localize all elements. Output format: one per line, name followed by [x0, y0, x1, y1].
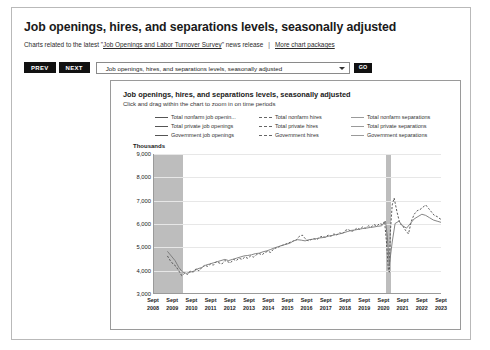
legend-item[interactable]: Government separations	[351, 131, 430, 140]
chart-select-value: Job openings, hires, and separations lev…	[106, 65, 282, 72]
legend-label: Total private job openings	[171, 123, 233, 129]
legend-item[interactable]: Total private separations	[351, 122, 430, 131]
legend-swatch-icon	[351, 115, 364, 120]
legend-column-hires: Total nonfarm hiresTotal private hiresGo…	[259, 113, 322, 140]
legend-label: Total nonfarm job openin...	[171, 114, 236, 120]
y-axis-tick-label: 9,000	[125, 151, 151, 157]
y-axis-tick-label: 4,000	[125, 267, 151, 273]
chart-package-page: Job openings, hires, and separations lev…	[11, 7, 471, 340]
page-title: Job openings, hires, and separations lev…	[24, 20, 454, 34]
legend-label: Government hires	[275, 132, 319, 138]
legend-swatch-icon	[155, 124, 168, 129]
legend-label: Government job openings	[171, 132, 234, 138]
x-axis-labels: Sept2008Sept2009Sept2010Sept2011Sept2012…	[153, 296, 441, 320]
legend-item[interactable]: Total nonfarm separations	[351, 113, 430, 122]
legend-swatch-icon	[259, 124, 272, 129]
next-button[interactable]: NEXT	[59, 62, 90, 73]
legend-item[interactable]: Total nonfarm job openin...	[155, 113, 236, 122]
legend-item[interactable]: Total private hires	[259, 122, 322, 131]
plot-area-wrapper: Thousands 9,0008,0007,0006,0005,0004,000…	[111, 143, 462, 329]
chart-card: Job openings, hires, and separations lev…	[110, 80, 461, 330]
series-svg	[154, 154, 441, 293]
blurb-prefix: Charts related to the latest "	[24, 41, 103, 48]
y-axis-tick-label: 8,000	[125, 174, 151, 180]
chart-select[interactable]: Job openings, hires, and separations lev…	[96, 62, 350, 74]
chart-subtitle: Click and drag within the chart to zoom …	[123, 101, 275, 107]
legend-label: Total private hires	[275, 123, 318, 129]
blurb-separator: |	[263, 41, 275, 48]
jolts-release-link[interactable]: Job Openings and Labor Turnover Survey	[103, 41, 222, 48]
y-axis-tick-label: 5,000	[125, 244, 151, 250]
y-axis-labels: 9,0008,0007,0006,0005,0004,0003,000	[123, 154, 151, 294]
go-button[interactable]: GO	[354, 63, 372, 73]
series-line	[167, 214, 441, 273]
legend-swatch-icon	[155, 133, 168, 138]
legend-item[interactable]: Total private job openings	[155, 122, 236, 131]
legend-column-openings: Total nonfarm job openin...Total private…	[155, 113, 236, 140]
chart-nav-toolbar: PREVNEXTJob openings, hires, and separat…	[24, 58, 372, 70]
y-axis-tick-label: 6,000	[125, 221, 151, 227]
legend-swatch-icon	[351, 124, 364, 129]
y-axis-tick-label: 7,000	[125, 197, 151, 203]
legend-item[interactable]: Government job openings	[155, 131, 236, 140]
legend-swatch-icon	[259, 133, 272, 138]
chevron-down-icon	[339, 67, 345, 70]
x-tick-year: 2023	[428, 304, 454, 312]
legend-swatch-icon	[351, 133, 364, 138]
legend-label: Government separations	[367, 132, 427, 138]
blurb-suffix: " news release	[222, 41, 264, 48]
y-axis-unit-label: Thousands	[133, 143, 165, 149]
legend-swatch-icon	[259, 115, 272, 120]
related-release-text: Charts related to the latest "Job Openin…	[24, 41, 460, 48]
legend-item[interactable]: Total nonfarm hires	[259, 113, 322, 122]
prev-button[interactable]: PREV	[24, 62, 56, 73]
legend-swatch-icon	[155, 115, 168, 120]
chart-legend: Total nonfarm job openin...Total private…	[155, 113, 455, 140]
more-chart-packages-link[interactable]: More chart packages	[275, 41, 335, 48]
plot-area[interactable]	[153, 154, 441, 294]
x-tick-month: Sept	[428, 296, 454, 304]
legend-label: Total nonfarm separations	[367, 114, 430, 120]
legend-label: Total nonfarm hires	[275, 114, 322, 120]
legend-item[interactable]: Government hires	[259, 131, 322, 140]
x-axis-tick-label: Sept2023	[428, 296, 454, 312]
legend-label: Total private separations	[367, 123, 427, 129]
chart-title: Job openings, hires, and separations lev…	[123, 90, 351, 99]
legend-column-separations: Total nonfarm separationsTotal private s…	[351, 113, 430, 140]
